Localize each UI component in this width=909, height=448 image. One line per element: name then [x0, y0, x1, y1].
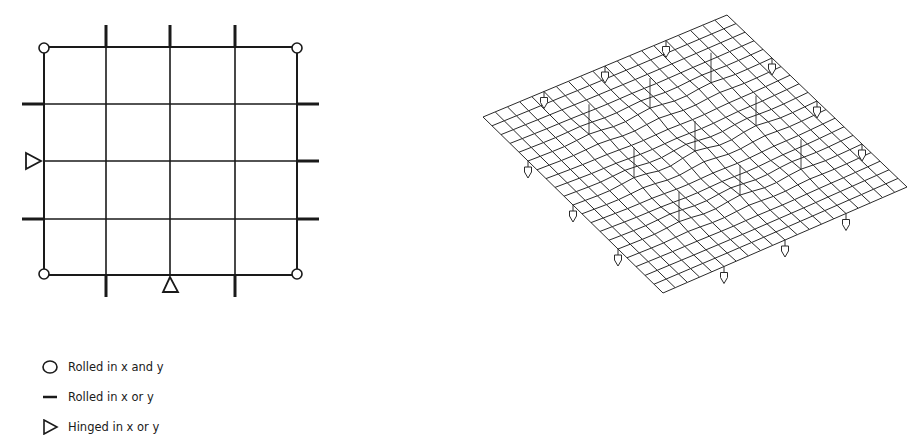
mesh-support-icon	[843, 214, 850, 231]
mesh-line	[715, 20, 895, 192]
mesh-support-icon	[782, 240, 789, 257]
mesh-line	[600, 127, 844, 232]
legend-item: Rolled in x or y	[38, 382, 164, 412]
mesh-line	[605, 66, 785, 240]
triangle-icon	[38, 419, 62, 435]
legend-item: Rolled in x and y	[38, 352, 164, 382]
mesh-support-icon	[721, 267, 728, 284]
legend-label: Rolled in x or y	[68, 390, 154, 404]
mesh-line	[618, 144, 862, 249]
circle-icon	[38, 359, 62, 375]
dash-icon	[38, 389, 62, 405]
legend-label: Hinged in x or y	[68, 420, 159, 434]
mesh-line	[568, 81, 748, 256]
legend: Rolled in x and y Rolled in x or y Hinge…	[38, 352, 164, 442]
mesh-line	[666, 41, 846, 214]
mesh-line	[609, 135, 853, 240]
mesh-line	[636, 161, 880, 266]
legend-label: Rolled in x and y	[68, 360, 164, 374]
legend-item: Hinged in x or y	[38, 412, 164, 442]
